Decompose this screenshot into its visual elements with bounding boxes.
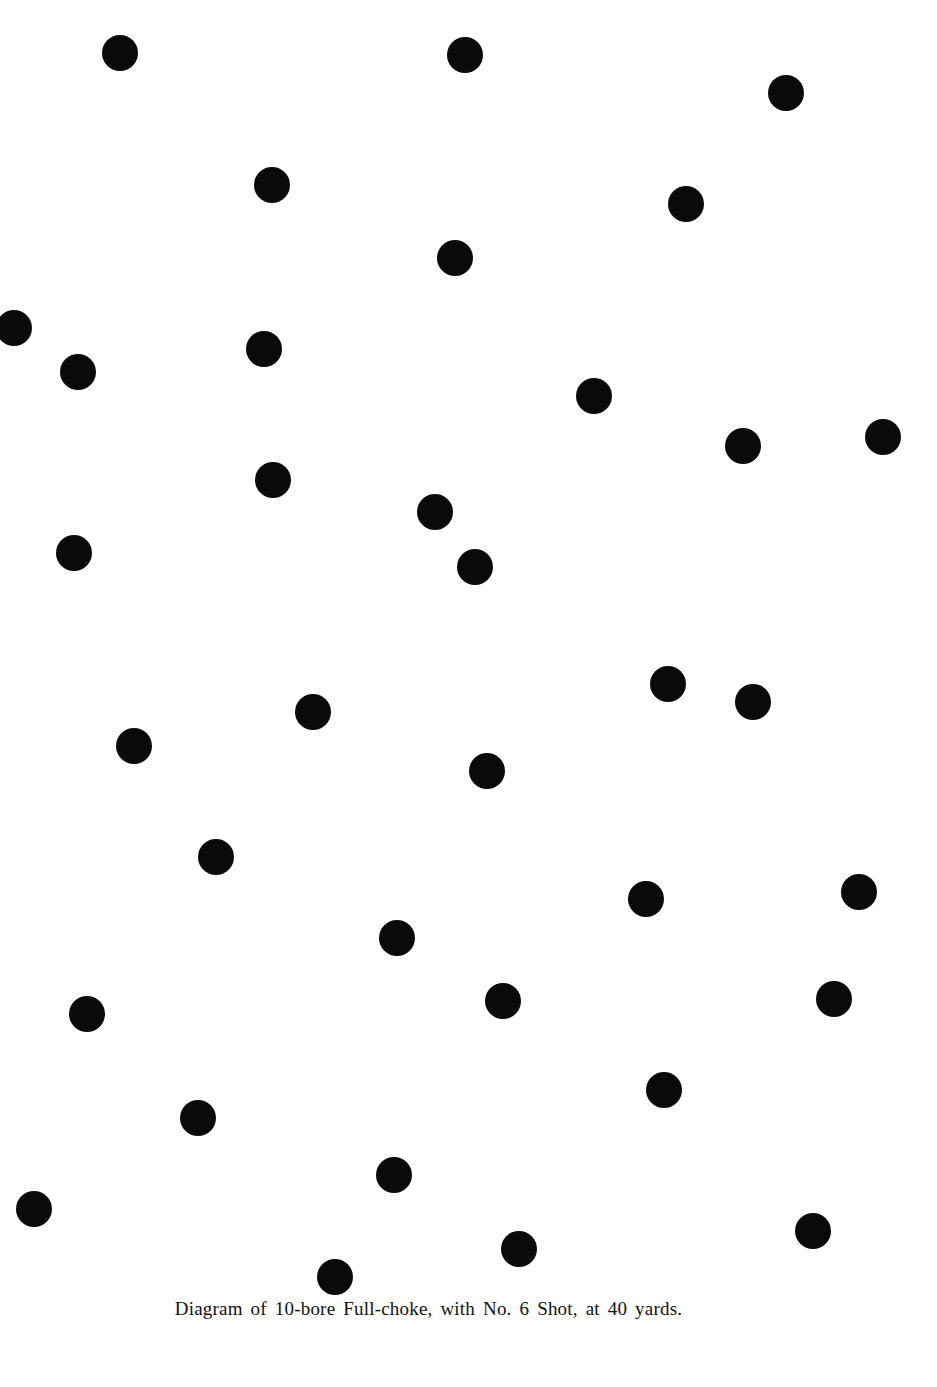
shot-pellet-mark [295, 694, 331, 730]
shot-pellet-mark [650, 666, 686, 702]
shot-pellet-mark [576, 378, 612, 414]
shot-pellet-mark [417, 494, 453, 530]
shot-pellet-mark [60, 354, 96, 390]
diagram-caption: Diagram of 10-bore Full-choke, with No. … [0, 1298, 857, 1320]
shot-pellet-mark [379, 920, 415, 956]
shot-pellet-mark [116, 728, 152, 764]
shot-pellet-mark [198, 839, 234, 875]
shot-pellet-mark [437, 240, 473, 276]
shot-pellet-mark [255, 462, 291, 498]
shot-pellet-mark [725, 428, 761, 464]
shot-pellet-mark [501, 1231, 537, 1267]
shot-pellet-mark [56, 535, 92, 571]
shot-pattern-plate [0, 0, 937, 1387]
shot-pellet-mark [668, 186, 704, 222]
shot-pellet-mark [485, 983, 521, 1019]
shot-pellet-mark [16, 1191, 52, 1227]
shot-pellet-mark [865, 419, 901, 455]
shot-pellet-mark [646, 1072, 682, 1108]
shot-pellet-mark [795, 1213, 831, 1249]
shot-pellet-mark [317, 1259, 353, 1295]
shot-pellet-mark [447, 37, 483, 73]
shot-pellet-mark [0, 310, 32, 346]
shot-pellet-mark [768, 75, 804, 111]
shot-pellet-mark [841, 874, 877, 910]
shot-pellet-mark [69, 996, 105, 1032]
shot-pellet-mark [376, 1157, 412, 1193]
shot-pellet-mark [457, 549, 493, 585]
shot-pellet-mark [254, 167, 290, 203]
shot-pellet-mark [469, 753, 505, 789]
shot-pellet-mark [628, 881, 664, 917]
shot-pellet-mark [246, 331, 282, 367]
shot-pellet-mark [180, 1100, 216, 1136]
shot-pellet-mark [735, 684, 771, 720]
shot-pellet-mark [816, 981, 852, 1017]
shot-pellet-mark [102, 35, 138, 71]
